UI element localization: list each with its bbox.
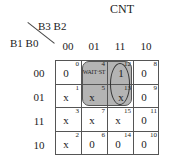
cell-value: x (110, 91, 132, 103)
cell-index: 0 (76, 60, 80, 68)
cell-index: 11 (150, 107, 157, 115)
cell-index: 6 (102, 131, 106, 139)
column-header: 01 (81, 40, 107, 52)
kmap-cell: x15 (107, 107, 133, 131)
cell-index: 12 (124, 60, 131, 68)
kmap-cell: 08 (133, 60, 159, 84)
cell-value: 0 (133, 67, 155, 79)
kmap-cell: x2 (55, 131, 81, 155)
kmap-cell: 011 (133, 107, 159, 131)
kmap-cell: x5 (81, 84, 107, 108)
kmap-cell: 00 (55, 60, 81, 84)
kmap-cell: 014 (107, 131, 133, 155)
row-variable-label: B1 B0 (10, 37, 38, 49)
kmap-cell: 09 (133, 84, 159, 108)
cell-value: x (55, 91, 77, 103)
cell-index: 15 (124, 107, 131, 115)
cell-value: 0 (133, 91, 155, 103)
kmap-cell: 06 (81, 131, 107, 155)
cell-index: 4 (102, 60, 106, 68)
cell-value: 0 (107, 138, 129, 150)
row-header: 11 (28, 115, 50, 127)
kmap-cell: x13 (107, 84, 133, 108)
kmap-cell: 010 (133, 131, 159, 155)
cell-index: 14 (124, 131, 131, 139)
cell-value: x (55, 138, 77, 150)
kmap-cell: WAIT·ST4 (81, 60, 107, 84)
cell-value: x (81, 114, 103, 126)
column-header: 10 (133, 40, 159, 52)
row-header: 00 (28, 67, 50, 79)
cell-index: 3 (76, 107, 80, 115)
column-variable-label: B3 B2 (38, 20, 66, 32)
cell-value: 0 (133, 138, 155, 150)
row-header: 10 (28, 139, 50, 151)
column-header: 00 (55, 40, 81, 52)
cell-index: 5 (102, 84, 106, 92)
cell-value: WAIT·ST (82, 69, 106, 75)
cell-index: 8 (154, 60, 158, 68)
cell-value: x (55, 114, 77, 126)
cell-value: 0 (81, 138, 103, 150)
column-header: 11 (107, 40, 133, 52)
cell-index: 1 (76, 84, 80, 92)
cell-index: 7 (102, 107, 106, 115)
kmap-title: CNT (110, 2, 134, 17)
kmap-cell: 112 (107, 60, 133, 84)
cell-index: 2 (76, 131, 80, 139)
cell-index: 10 (150, 131, 157, 139)
cell-index: 9 (154, 84, 158, 92)
row-header: 01 (28, 91, 50, 103)
cell-index: 13 (124, 84, 131, 92)
cell-value: 0 (133, 114, 155, 126)
kmap-cell: x7 (81, 107, 107, 131)
cell-value: x (81, 91, 103, 103)
kmap-cell: x1 (55, 84, 81, 108)
cell-value: x (107, 114, 129, 126)
kmap-cell: x3 (55, 107, 81, 131)
cell-value: 0 (55, 67, 77, 79)
cell-value: 1 (110, 67, 132, 79)
